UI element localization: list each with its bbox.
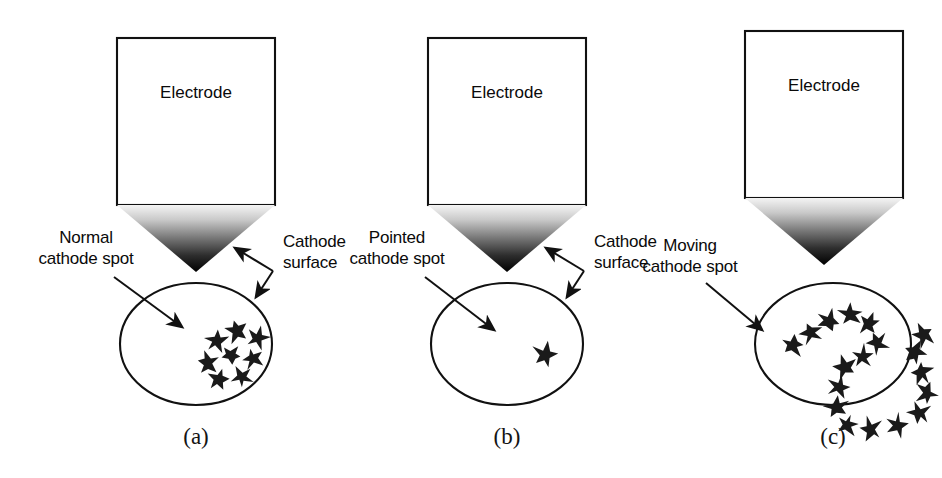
electrode-label: Electrode <box>428 83 586 103</box>
panel-a: Electrode Normal cathode spot Cathode su… <box>0 0 314 478</box>
cathode-spot-star <box>908 318 938 350</box>
electrode-body <box>428 38 586 205</box>
surface-leader-arrow-to-tip <box>546 248 584 271</box>
panel-caption: (c) <box>773 424 893 450</box>
electrode-cone-tip <box>745 198 903 265</box>
cathode-surface-ellipse <box>120 283 272 405</box>
electrode-body <box>117 38 275 205</box>
cathode-surface-ellipse <box>755 283 911 405</box>
cathode-spot-star <box>910 377 942 410</box>
surface-leader-arrow-to-tip <box>235 248 273 271</box>
electrode-label: Electrode <box>117 83 275 103</box>
electrode-label: Electrode <box>745 76 903 96</box>
cathode-spot-star <box>909 360 937 387</box>
panel-c: Electrode Moving cathode spot (c) <box>628 0 942 478</box>
panel-caption: (a) <box>136 424 256 450</box>
figure-root: Electrode Normal cathode spot Cathode su… <box>0 0 942 478</box>
spot-label-line2: cathode spot <box>616 257 764 277</box>
spot-label-line2: cathode spot <box>323 249 471 269</box>
cathode-spot-star <box>904 397 936 427</box>
surface-leader-arrow-to-ellipse <box>567 271 584 297</box>
spot-label-line1: Normal <box>24 228 148 248</box>
cathode-surface-ellipse <box>431 283 583 405</box>
spot-label-line1: Moving <box>628 236 752 256</box>
electrode-body <box>745 31 903 198</box>
spot-label-line2: cathode spot <box>12 249 160 269</box>
surface-leader-arrow-to-ellipse <box>256 271 273 297</box>
spot-label-leader-arrow <box>706 283 762 330</box>
panel-b: Electrode Pointed cathode spot Cathode s… <box>314 0 628 478</box>
panel-caption: (b) <box>447 424 567 450</box>
spot-label-line1: Pointed <box>335 228 459 248</box>
